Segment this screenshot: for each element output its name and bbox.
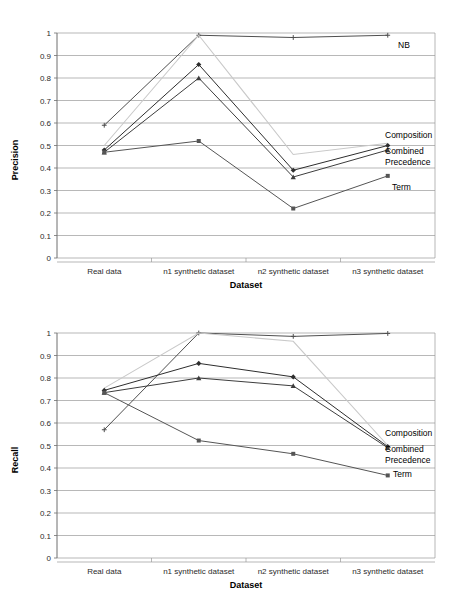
x-tick-label: n1 synthetic dataset xyxy=(163,267,235,276)
y-tick-label: 0.4 xyxy=(40,164,52,173)
series-markers xyxy=(102,391,390,478)
recall-label-combined: Combined xyxy=(385,444,424,454)
x-tick-label: Real data xyxy=(87,567,122,576)
precision-x-axis-title: Dataset xyxy=(230,280,263,290)
y-tick-label: 1 xyxy=(47,29,52,38)
y-tick-label: 0.7 xyxy=(40,97,52,106)
y-tick-label: 0.8 xyxy=(40,74,52,83)
precision-label-composition: Composition xyxy=(385,130,433,140)
series-markers xyxy=(102,361,391,449)
x-tick-label: Real data xyxy=(87,267,122,276)
y-tick-label: 0.1 xyxy=(40,232,52,241)
recall-label-composition: Composition xyxy=(385,428,433,438)
y-tick-label: 0 xyxy=(47,254,52,263)
precision-label-nb: NB xyxy=(398,40,410,50)
x-tick-label: n3 synthetic dataset xyxy=(352,267,424,276)
precision-label-combined: Combined xyxy=(385,146,424,156)
recall-y-tick-labels: 00.10.20.30.40.50.60.70.80.91 xyxy=(40,329,52,563)
series-line xyxy=(104,363,388,446)
precision-label-term: Term xyxy=(392,182,411,192)
recall-chart: 00.10.20.30.40.50.60.70.80.91 Real datan… xyxy=(0,300,455,600)
series-line xyxy=(104,35,388,154)
precision-series-lines xyxy=(102,33,391,211)
precision-y-axis-title: Precision xyxy=(10,140,20,181)
y-tick-label: 0.4 xyxy=(40,464,52,473)
recall-chart-svg: 00.10.20.30.40.50.60.70.80.91 Real datan… xyxy=(0,300,455,600)
precision-label-precedence: Precedence xyxy=(385,157,431,167)
y-tick-label: 0.2 xyxy=(40,209,52,218)
x-tick-label: n2 synthetic dataset xyxy=(258,267,330,276)
y-tick-label: 0.1 xyxy=(40,532,52,541)
y-tick-label: 0.3 xyxy=(40,487,52,496)
recall-y-axis-title: Recall xyxy=(10,447,20,474)
precision-y-tick-labels: 00.10.20.30.40.50.60.70.80.91 xyxy=(40,29,52,263)
y-tick-label: 0.6 xyxy=(40,119,52,128)
y-tick-label: 0.2 xyxy=(40,509,52,518)
y-tick-label: 0 xyxy=(47,554,52,563)
series-line xyxy=(104,65,388,171)
recall-x-axis-title: Dataset xyxy=(230,580,263,590)
x-tick-label: n2 synthetic dataset xyxy=(258,567,330,576)
y-tick-label: 0.7 xyxy=(40,397,52,406)
recall-x-tick-labels: Real datan1 synthetic datasetn2 syntheti… xyxy=(87,567,424,576)
precision-chart-svg: 00.10.20.30.40.50.60.70.80.91 Real datan… xyxy=(0,0,455,300)
series-line xyxy=(104,333,388,446)
series-line xyxy=(104,378,388,448)
series-line xyxy=(104,393,388,476)
y-tick-label: 1 xyxy=(47,329,52,338)
precision-gridlines xyxy=(54,33,435,262)
y-tick-label: 0.5 xyxy=(40,442,52,451)
y-tick-label: 0.3 xyxy=(40,187,52,196)
x-tick-label: n1 synthetic dataset xyxy=(163,567,235,576)
y-tick-label: 0.8 xyxy=(40,374,52,383)
series-line xyxy=(104,141,388,209)
y-tick-label: 0.5 xyxy=(40,142,52,151)
y-tick-label: 0.6 xyxy=(40,419,52,428)
y-tick-label: 0.9 xyxy=(40,352,52,361)
y-tick-label: 0.9 xyxy=(40,52,52,61)
series-line xyxy=(104,78,388,177)
x-tick-label: n3 synthetic dataset xyxy=(352,567,424,576)
recall-gridlines xyxy=(54,333,435,562)
precision-chart: 00.10.20.30.40.50.60.70.80.91 Real datan… xyxy=(0,0,455,300)
recall-label-precedence: Precedence xyxy=(385,455,431,465)
recall-series-lines xyxy=(102,331,391,478)
recall-label-term: Term xyxy=(393,469,412,479)
precision-x-tick-labels: Real datan1 synthetic datasetn2 syntheti… xyxy=(87,267,424,276)
